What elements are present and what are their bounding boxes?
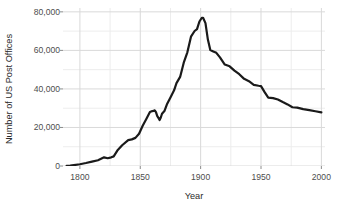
x-axis-title: Year xyxy=(73,190,315,202)
x-tick-label: 1950 xyxy=(241,172,281,182)
x-tick-label: 1800 xyxy=(60,172,100,182)
x-tick-label: 2000 xyxy=(301,172,337,182)
x-tick-label: 1900 xyxy=(181,172,221,182)
x-axis-tick-labels: 18001850190019502000 xyxy=(0,0,337,210)
x-tick-label: 1850 xyxy=(120,172,160,182)
post-offices-line-chart: Number of US Post Offices 020,00040,0006… xyxy=(0,0,337,210)
